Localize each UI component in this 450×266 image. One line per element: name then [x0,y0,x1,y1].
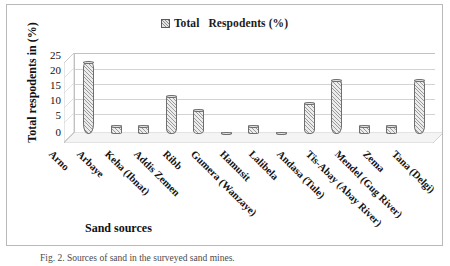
x-axis-category-labels: Arno Arbaye Keha (Ibnat) Addis Zemen Rib… [54,149,435,211]
y-tick-0: 0 [56,127,62,138]
bar-slot [185,53,213,134]
bar-gumera-wanzaye[interactable] [221,132,232,135]
x-axis-title: Sand sources [85,221,152,236]
hatched-square-icon [161,19,170,28]
bar-slot [130,53,158,134]
plot-side-wall [64,53,75,143]
bar-slot [268,53,296,134]
bar-ribb[interactable] [193,109,204,134]
bar-slot [405,53,433,134]
bar-slot [75,53,103,134]
bar-slot [213,53,241,134]
bar-slot [295,53,323,134]
bar-slot [323,53,351,134]
x-label-tana-delgi: Tana (Delgi) [390,149,437,196]
y-axis-title: Total respodents in (%) [25,15,40,150]
bar-arno[interactable] [83,61,94,134]
bar-tana-delgi[interactable] [414,79,425,134]
bar-zema[interactable] [386,125,397,135]
y-axis-title-text: Total respodents in (%) [25,22,40,142]
y-tick-20: 20 [50,65,61,76]
y-tick-5: 5 [56,110,62,121]
bar-lalibela[interactable] [276,132,287,134]
bar-hamusit[interactable] [248,125,259,135]
bar-arbaye[interactable] [111,125,122,135]
x-label-zema: Zema [361,149,387,175]
bar-andasa-tule[interactable] [304,102,315,134]
bar-slot [350,53,378,134]
figure-caption: Fig. 2. Sources of sand in the surveyed … [40,253,440,263]
x-label-arno: Arno [47,149,71,173]
y-tick-15: 15 [50,80,61,91]
figure-frame: Total Respodents (%) Total respodents in… [6,4,443,246]
plot-canvas [64,53,435,151]
bar-addis-zemen[interactable] [166,95,177,135]
bar-slot [103,53,131,134]
bar-tis-abay[interactable] [331,79,342,134]
plot-area: 25 20 15 10 5 0 [43,53,435,151]
bar-slot [240,53,268,134]
bar-keha-ibnat[interactable] [138,125,149,135]
bars-layer [75,53,433,134]
bar-slot [158,53,186,134]
y-tick-10: 10 [50,95,61,106]
x-label-arbaye: Arbaye [75,149,106,180]
bar-slot [378,53,406,134]
chart-legend: Total Respodents (%) [7,17,442,29]
bar-mendel-gug-river[interactable] [359,125,370,135]
x-label-ribb: Ribb [161,149,184,172]
legend-label: Total Respodents (%) [174,17,288,29]
y-tick-25: 25 [50,50,61,61]
y-axis-tick-labels: 25 20 15 10 5 0 [43,53,61,141]
